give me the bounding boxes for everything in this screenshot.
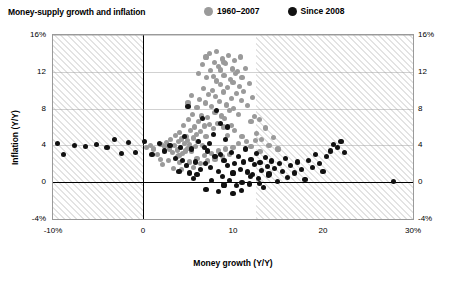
- x-tick-label: 30%: [393, 226, 433, 235]
- y-zero-line: [53, 182, 413, 183]
- y-gridline: [53, 35, 413, 36]
- data-point: [277, 161, 282, 166]
- data-point: [313, 152, 318, 157]
- scatter-plot-area: [52, 34, 414, 220]
- y-axis-title: Inflation (Y/Y): [10, 110, 20, 165]
- data-point: [266, 171, 271, 176]
- data-point: [317, 161, 322, 166]
- y-tick-label-right: -4%: [418, 214, 458, 223]
- x-tick-label: 20: [303, 226, 343, 235]
- data-point: [338, 139, 343, 144]
- y-gridline: [53, 145, 413, 146]
- y-tick-label-right: 0: [418, 177, 458, 186]
- data-point: [280, 169, 285, 174]
- data-point: [133, 150, 138, 155]
- chart-legend: 1960–2007 Since 2008: [204, 6, 345, 16]
- legend-item-recent: Since 2008: [288, 6, 345, 16]
- data-point: [295, 159, 300, 164]
- data-point: [112, 137, 117, 142]
- data-point: [119, 151, 124, 156]
- legend-swatch-recent: [288, 7, 297, 16]
- data-point: [275, 146, 280, 151]
- data-point: [288, 163, 293, 168]
- y-gridline: [53, 219, 413, 220]
- data-point: [257, 149, 262, 154]
- data-point: [342, 150, 347, 155]
- data-point: [261, 185, 266, 190]
- data-point: [257, 117, 262, 122]
- x-tick-label: 10: [213, 226, 253, 235]
- data-point: [299, 167, 304, 172]
- x-tick-label: -10%: [33, 226, 73, 235]
- y-tick-label-left: -4%: [6, 214, 46, 223]
- y-tick-label-right: 16%: [418, 30, 458, 39]
- y-tick-label-right: 12: [418, 67, 458, 76]
- data-point: [320, 169, 325, 174]
- data-point: [259, 168, 264, 173]
- y-gridline: [53, 109, 413, 110]
- legend-label-recent: Since 2008: [301, 6, 345, 16]
- data-point: [266, 173, 271, 178]
- x-zero-line: [143, 35, 144, 219]
- data-point: [328, 148, 333, 153]
- chart-header: Money-supply growth and inflation 1960–2…: [8, 6, 460, 22]
- legend-item-historical: 1960–2007: [204, 6, 260, 16]
- y-tick-label-left: 16%: [6, 30, 46, 39]
- y-tick-label-left: 0: [6, 177, 46, 186]
- x-axis-title: Money growth (Y/Y): [52, 258, 414, 268]
- data-point: [269, 158, 274, 163]
- legend-label-historical: 1960–2007: [217, 6, 260, 16]
- y-tick-label-right: 8: [418, 104, 458, 113]
- y-tick-label-left: 12: [6, 67, 46, 76]
- data-point: [271, 135, 276, 140]
- data-point: [283, 156, 288, 161]
- chart-root: Money-supply growth and inflation 1960–2…: [0, 0, 468, 285]
- plot-highlight-band: [143, 35, 256, 219]
- data-point: [263, 155, 268, 160]
- data-point: [256, 176, 261, 181]
- data-point: [257, 160, 262, 165]
- data-point: [61, 152, 66, 157]
- data-point: [272, 166, 277, 171]
- chart-title: Money-supply growth and inflation: [8, 7, 145, 17]
- data-point: [306, 158, 311, 163]
- legend-swatch-historical: [204, 7, 213, 16]
- data-point: [263, 125, 268, 130]
- x-tick-label: 0: [123, 226, 163, 235]
- data-point: [324, 154, 329, 159]
- data-point: [310, 165, 315, 170]
- data-point: [285, 175, 290, 180]
- data-point: [265, 164, 270, 169]
- data-point: [292, 170, 297, 175]
- y-tick-label-right: 4: [418, 140, 458, 149]
- data-point: [259, 137, 264, 142]
- y-gridline: [53, 72, 413, 73]
